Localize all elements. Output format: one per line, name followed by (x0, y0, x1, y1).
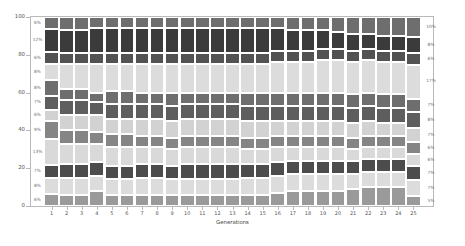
x-axis-tick-label: 15 (256, 211, 270, 216)
band-segment (195, 17, 210, 28)
band-segment (240, 138, 255, 149)
band-percentage-label-right: 8% (423, 118, 439, 122)
band-segment (406, 166, 421, 180)
band-segment (255, 17, 270, 28)
band-segment (255, 195, 270, 206)
band-segment (301, 93, 316, 106)
band-segment (225, 164, 240, 179)
band-segment (44, 29, 59, 53)
band-segment (391, 123, 406, 136)
band-segment (346, 161, 361, 174)
band-segment (44, 80, 59, 96)
band-segment (270, 121, 285, 136)
band-segment (120, 119, 135, 134)
generation-column (180, 17, 195, 206)
band-segment (270, 93, 285, 106)
band-segment (240, 106, 255, 121)
band-segment (165, 53, 180, 64)
generation-column (59, 17, 74, 206)
band-percentage-label-right: 6% (423, 158, 439, 162)
band-segment (225, 119, 240, 136)
x-axis-tick-label: 5 (105, 211, 119, 216)
x-axis-tick-label: 19 (316, 211, 330, 216)
band-segment (361, 17, 376, 34)
band-segment (346, 189, 361, 206)
band-segment (255, 28, 270, 53)
band-segment (120, 53, 135, 64)
stacked-bands-area (44, 17, 421, 206)
band-segment (165, 64, 180, 92)
band-percentage-label-left: 6% (31, 21, 44, 25)
band-segment (135, 64, 150, 92)
band-segment (44, 96, 59, 110)
band-segment (406, 53, 421, 65)
band-segment (286, 51, 301, 62)
band-segment (361, 60, 376, 92)
band-segment (195, 179, 210, 194)
band-segment (105, 179, 120, 194)
band-segment (59, 130, 74, 143)
band-segment (44, 52, 59, 64)
band-segment (406, 112, 421, 128)
band-segment (240, 164, 255, 177)
band-segment (240, 178, 255, 195)
stacked-area-chart: 020406080100 6%12%6%8%8%7%6%9%13%7%8%6% … (0, 0, 465, 246)
band-segment (255, 149, 270, 164)
band-percentage-label-left: 8% (31, 86, 44, 90)
x-axis: Generations 1234567891011121314151617181… (0, 207, 465, 246)
band-segment (225, 93, 240, 104)
band-segment (331, 161, 346, 174)
band-percentage-label-left: 7% (31, 169, 44, 173)
band-segment (44, 17, 59, 29)
band-segment (286, 161, 301, 174)
band-segment (316, 136, 331, 147)
band-segment (120, 166, 135, 179)
band-segment (180, 93, 195, 104)
band-segment (105, 147, 120, 166)
band-segment (331, 191, 346, 206)
band-segment (150, 64, 165, 92)
band-segment (195, 147, 210, 164)
band-segment (391, 51, 406, 62)
band-segment (150, 195, 165, 206)
band-segment (301, 161, 316, 174)
band-segment (301, 147, 316, 160)
band-percentage-label-left: 8% (31, 70, 44, 74)
band-segment (89, 102, 104, 115)
band-segment (210, 164, 225, 179)
band-segment (286, 121, 301, 136)
band-segment (331, 174, 346, 191)
band-segment (195, 119, 210, 136)
band-segment (195, 136, 210, 147)
band-segment (286, 17, 301, 30)
band-segment (361, 159, 376, 172)
generation-column (406, 17, 421, 206)
band-segment (59, 100, 74, 115)
band-percentage-label-left: 6% (31, 56, 44, 60)
band-segment (225, 17, 240, 28)
band-segment (210, 28, 225, 53)
band-segment (270, 136, 285, 147)
generation-column (316, 17, 331, 206)
band-segment (89, 115, 104, 132)
generation-column (361, 17, 376, 206)
band-segment (376, 36, 391, 51)
band-segment (346, 62, 361, 94)
band-segment (225, 64, 240, 92)
band-segment (89, 144, 104, 163)
band-segment (331, 49, 346, 60)
band-segment (240, 64, 255, 92)
band-segment (286, 93, 301, 106)
band-segment (135, 93, 150, 104)
x-axis-tick-label: 20 (331, 211, 345, 216)
band-percentage-label-left: 7% (31, 100, 44, 104)
band-segment (331, 93, 346, 106)
band-segment (255, 93, 270, 106)
band-segment (180, 164, 195, 179)
band-percentage-label-left: 8% (31, 184, 44, 188)
band-segment (240, 149, 255, 164)
band-segment (210, 179, 225, 194)
band-segment (120, 134, 135, 147)
band-segment (89, 53, 104, 64)
band-percentage-label-left: 6% (31, 113, 44, 117)
